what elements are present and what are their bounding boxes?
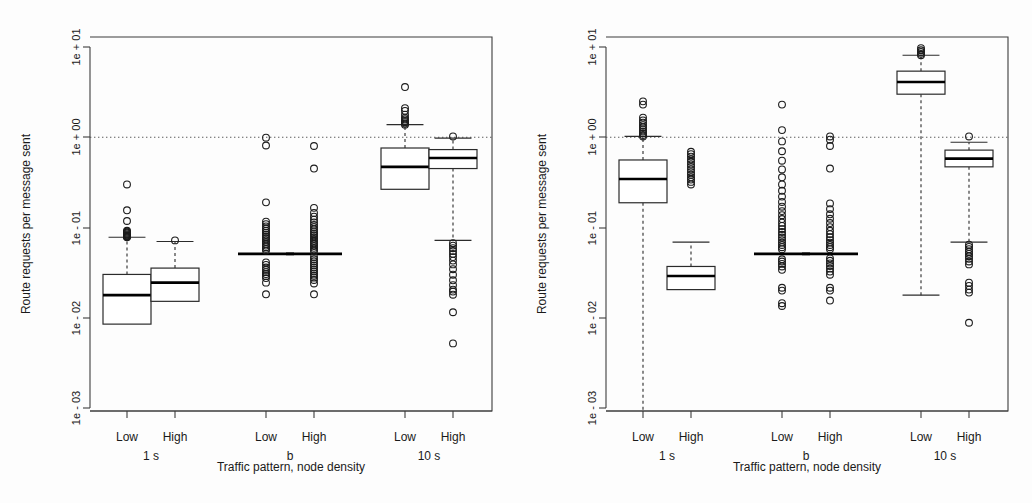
x-axis-group-label: 1 s <box>143 449 159 463</box>
outlier-point <box>450 309 457 316</box>
boxplot-box <box>802 133 858 304</box>
x-axis-category-label: High <box>818 430 843 444</box>
outlier-point <box>827 297 834 304</box>
y-axis-tick-label: 1e + 00 <box>70 118 82 155</box>
x-axis-category-label: Low <box>394 430 416 444</box>
x-axis-category-label: High <box>441 430 466 444</box>
outlier-point <box>263 291 270 298</box>
x-axis-category-label: Low <box>910 430 932 444</box>
plot-frame <box>90 37 492 411</box>
outlier-point <box>311 291 318 298</box>
right-panel-canvas: 1e + 011e + 001e - 011e - 021e - 03LowHi… <box>516 0 1032 503</box>
outlier-point <box>311 165 318 172</box>
outlier-point <box>827 165 834 172</box>
boxplot-box <box>619 98 667 411</box>
y-axis-title: Route requests per message sent <box>535 133 549 314</box>
outlier-point <box>450 133 457 140</box>
outlier-point <box>124 181 131 188</box>
left-panel-axes: 1e + 011e + 001e - 011e - 021e - 03LowHi… <box>19 28 492 474</box>
x-axis-group-label: 10 s <box>934 449 957 463</box>
outlier-point <box>779 181 786 188</box>
outlier-point <box>450 340 457 347</box>
outlier-point <box>402 84 409 91</box>
box-iqr <box>151 268 199 301</box>
x-axis-category-label: High <box>302 430 327 444</box>
y-axis-tick-label: 1e - 02 <box>586 301 598 335</box>
outlier-point <box>779 127 786 134</box>
boxplot-figure: 1e + 011e + 001e - 011e - 021e - 03LowHi… <box>0 0 1032 503</box>
boxplot-box <box>897 45 945 295</box>
boxplot-box <box>103 181 151 324</box>
outlier-point <box>966 319 973 326</box>
y-axis-tick-label: 1e + 00 <box>586 118 598 155</box>
x-axis-category-label: High <box>957 430 982 444</box>
outlier-point <box>311 204 318 211</box>
x-axis-title: Traffic pattern, node density <box>217 460 365 474</box>
y-axis-tick-label: 1e - 01 <box>586 211 598 245</box>
outlier-point <box>124 207 131 214</box>
x-axis-group-label: 10 s <box>418 449 441 463</box>
y-axis-tick-label: 1e + 01 <box>70 28 82 65</box>
boxplot-box <box>667 148 715 289</box>
y-axis-tick-label: 1e - 01 <box>70 211 82 245</box>
boxplot-box <box>286 143 342 298</box>
outlier-point <box>779 148 786 155</box>
x-axis-category-label: Low <box>632 430 654 444</box>
outlier-point <box>311 143 318 150</box>
plot-frame <box>606 37 1008 411</box>
left-panel: 1e + 011e + 001e - 011e - 021e - 03LowHi… <box>0 0 516 503</box>
y-axis-tick-label: 1e - 02 <box>70 301 82 335</box>
outlier-point <box>779 157 786 164</box>
box-iqr <box>667 266 715 289</box>
outlier-point <box>263 199 270 206</box>
boxplot-box <box>151 237 199 301</box>
outlier-point <box>779 174 786 181</box>
boxplot-box <box>945 133 993 326</box>
boxplot-box <box>381 84 429 190</box>
outlier-point <box>779 138 786 145</box>
x-axis-category-label: Low <box>116 430 138 444</box>
x-axis-category-label: Low <box>771 430 793 444</box>
left-panel-canvas: 1e + 011e + 001e - 011e - 021e - 03LowHi… <box>0 0 516 503</box>
y-axis-title: Route requests per message sent <box>19 133 33 314</box>
outlier-point <box>779 101 786 108</box>
x-axis-title: Traffic pattern, node density <box>733 460 881 474</box>
outlier-point <box>966 133 973 140</box>
outlier-point <box>263 142 270 149</box>
boxplot-box <box>754 101 810 309</box>
x-axis-group-label: 1 s <box>659 449 675 463</box>
x-axis-category-label: Low <box>255 430 277 444</box>
boxplot-box <box>238 134 294 297</box>
box-iqr <box>619 160 667 203</box>
y-axis-tick-label: 1e - 03 <box>586 391 598 425</box>
box-iqr <box>103 274 151 324</box>
x-axis-category-label: High <box>163 430 188 444</box>
right-panel: 1e + 011e + 001e - 011e - 021e - 03LowHi… <box>516 0 1032 503</box>
right-panel-axes: 1e + 011e + 001e - 011e - 021e - 03LowHi… <box>535 28 1008 474</box>
outlier-point <box>124 218 131 225</box>
outlier-point <box>779 166 786 173</box>
y-axis-tick-label: 1e - 03 <box>70 391 82 425</box>
x-axis-category-label: High <box>679 430 704 444</box>
y-axis-tick-label: 1e + 01 <box>586 28 598 65</box>
boxplot-box <box>429 133 477 347</box>
box-iqr <box>381 148 429 189</box>
